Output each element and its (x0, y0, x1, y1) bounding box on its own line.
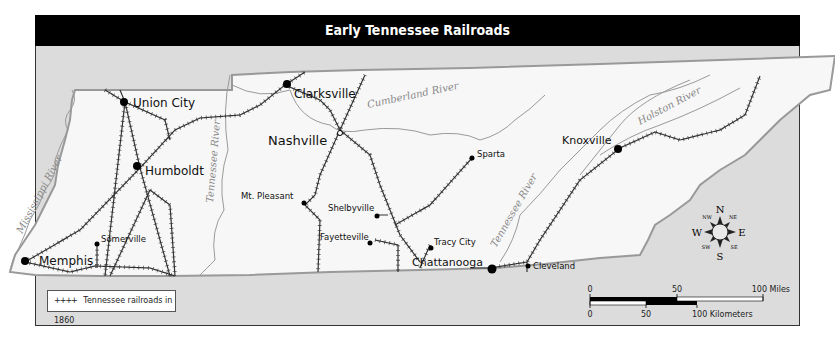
compass-e: E (738, 227, 745, 238)
city-label: Union City (133, 96, 195, 110)
scale-km-50: 50 (641, 310, 651, 319)
compass-sw: SW (702, 244, 711, 250)
compass-ne: NE (729, 214, 737, 220)
compass-nw: NW (702, 214, 712, 220)
compass-se: SE (730, 244, 737, 250)
map-legend: ++++ Tennessee railroads in 1860 (47, 290, 176, 312)
city-label: Knoxville (562, 134, 612, 147)
scale-km-100: 100 Kilometers (692, 310, 753, 319)
city-label: Chattanooga (412, 256, 483, 269)
city-label: Mt. Pleasant (241, 191, 294, 201)
city-label: Humboldt (145, 164, 204, 178)
railroad-symbol-icon: ++++ (54, 296, 77, 305)
city-label: Tracy City (433, 237, 476, 247)
scale-km-0: 0 (587, 310, 592, 319)
city-label: Cleveland (533, 261, 575, 271)
compass-rose-icon: N S E W NE NW SE SW (692, 204, 746, 262)
city-label: Nashville (268, 133, 327, 148)
city-label: Shelbyville (328, 203, 374, 213)
scale-miles-50: 50 (672, 285, 682, 294)
compass-w: W (692, 227, 703, 238)
scale-miles-100: 100 Miles (752, 285, 790, 294)
compass-n: N (716, 204, 725, 215)
scale-miles-0: 0 (587, 285, 592, 294)
city-label: Fayetteville (320, 232, 369, 242)
scale-bar: 0 50 100 Miles 0 50 100 Kilometers (587, 285, 790, 319)
city-label: Sparta (477, 149, 505, 159)
compass-s: S (717, 251, 724, 262)
city-label: Somerville (101, 234, 146, 244)
city-label: Memphis (39, 254, 93, 268)
city-label: Clarksville (294, 87, 356, 101)
